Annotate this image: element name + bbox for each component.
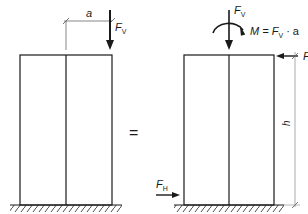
- fh-arrow-head: [172, 192, 180, 198]
- fv-arrow-head: [106, 40, 114, 50]
- equals-sign: =: [129, 124, 138, 141]
- left-frame: a FV: [10, 7, 127, 212]
- dimension-a-label: a: [86, 7, 92, 19]
- fv-arrow-head-right: [225, 40, 233, 50]
- force-fv-label-right: FV: [234, 4, 246, 18]
- moment-arc: [213, 23, 243, 33]
- moment-label: M = FV · a: [250, 25, 300, 39]
- force-fh-label: FH: [156, 178, 168, 192]
- right-frame: FV M = FV · a F h FH: [156, 4, 308, 212]
- height-h-label: h: [281, 120, 292, 126]
- equivalent-load-diagram: a FV = FV M = FV · a F h FH: [0, 0, 308, 214]
- top-horizontal-force-head: [276, 53, 284, 59]
- left-ground-hatch: [10, 205, 122, 212]
- right-ground-hatch: [174, 205, 284, 212]
- top-horizontal-force-label: F: [303, 50, 308, 62]
- force-fv-label: FV: [115, 21, 127, 35]
